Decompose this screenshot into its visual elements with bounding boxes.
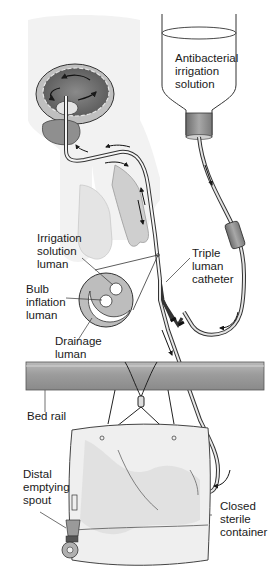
- label-irrigation-solution: Antibacterial irrigation solution: [175, 52, 238, 91]
- label-closed-sterile-container: Closed sterile container: [220, 500, 267, 539]
- label-bulb-inflation-lumen: Bulb inflation luman: [26, 283, 66, 322]
- label-triple-lumen-catheter: Triple luman catheter: [192, 247, 234, 286]
- label-distal-emptying-spout: Distal emptying spout: [23, 468, 70, 507]
- drainage-bag: [69, 424, 210, 565]
- catheter-cross-section: [79, 254, 160, 328]
- bed-rail: [26, 362, 264, 390]
- label-irrigation-lumen: Irrigation solution luman: [37, 232, 82, 271]
- bladder-irrigation-diagram: Antibacterial irrigation solution Irriga…: [0, 0, 276, 579]
- label-drainage-lumen: Drainage luman: [55, 335, 102, 361]
- label-bed-rail: Bed rail: [27, 410, 66, 423]
- drip-chamber: [224, 220, 245, 249]
